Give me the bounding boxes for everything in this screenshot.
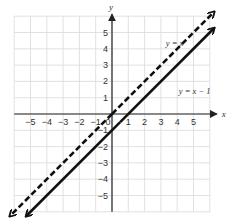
y-tick-label: −5 [98, 191, 108, 201]
x-tick-label: 5 [191, 117, 196, 127]
line-labels: y = xy = x − 1 [165, 38, 211, 97]
y-tick-label: 2 [103, 76, 108, 86]
x-tick-label: 2 [142, 117, 147, 127]
y-axis-label: y [108, 2, 113, 12]
line-annotation: y = x − 1 [178, 86, 211, 96]
x-tick-label: −2 [74, 117, 84, 127]
x-tick-label: −3 [58, 117, 68, 127]
line-0-lower [10, 114, 112, 216]
y-tick-label: −4 [98, 174, 108, 184]
x-tick-label: −4 [42, 117, 52, 127]
y-tick-label: 5 [103, 28, 108, 38]
y-tick-label: −3 [98, 158, 108, 168]
y-tick-label: 1 [103, 93, 108, 103]
coordinate-plane: xy −5−4−3−2−101234554321−1−2−3−4−5 y = x… [0, 0, 228, 224]
x-tick-label: 1 [126, 117, 131, 127]
x-tick-label: 4 [175, 117, 180, 127]
x-axis-label: x [221, 109, 226, 119]
x-tick-label: −5 [25, 117, 35, 127]
y-tick-label: 3 [103, 60, 108, 70]
line-0-upper [112, 12, 214, 114]
line-1-lower [26, 122, 120, 216]
y-tick-label: 4 [103, 44, 108, 54]
line-annotation: y = x [165, 38, 184, 48]
x-tick-label: 3 [158, 117, 163, 127]
